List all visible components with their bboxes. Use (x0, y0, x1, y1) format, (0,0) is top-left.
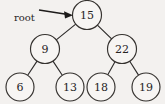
node-label-6: 6 (17, 81, 24, 94)
edge-9-to-13 (53, 61, 62, 75)
edge-15-to-22 (97, 25, 111, 39)
edge-22-to-19 (130, 61, 139, 75)
tree-canvas: 15 9 22 6 13 18 (0, 0, 165, 104)
edge-9-to-6 (28, 61, 37, 75)
tree-node-left-child[interactable]: 9 (31, 35, 60, 64)
tree-node-leaf-4[interactable]: 19 (132, 73, 160, 101)
tree-node-leaf-3[interactable]: 18 (87, 73, 115, 101)
node-label-18: 18 (94, 81, 108, 94)
tree-diagram-figure: 15 9 22 6 13 18 (0, 0, 165, 104)
node-label-19: 19 (139, 81, 153, 94)
edge-15-to-9 (56, 24, 75, 40)
root-annotation: root (14, 10, 73, 23)
edge-22-to-18 (108, 62, 115, 75)
root-pointer-arrow-head (64, 11, 73, 18)
node-label-9: 9 (42, 43, 49, 56)
tree-node-right-child[interactable]: 22 (108, 35, 137, 64)
tree-node-leaf-2[interactable]: 13 (56, 73, 84, 101)
node-label-15: 15 (80, 9, 94, 22)
root-pointer-arrow-shaft (39, 10, 68, 15)
tree-node-root[interactable]: 15 (73, 1, 102, 30)
tree-node-leaf-1[interactable]: 6 (6, 73, 34, 101)
node-label-13: 13 (63, 81, 77, 94)
root-label: root (14, 12, 35, 23)
node-label-22: 22 (115, 43, 129, 56)
